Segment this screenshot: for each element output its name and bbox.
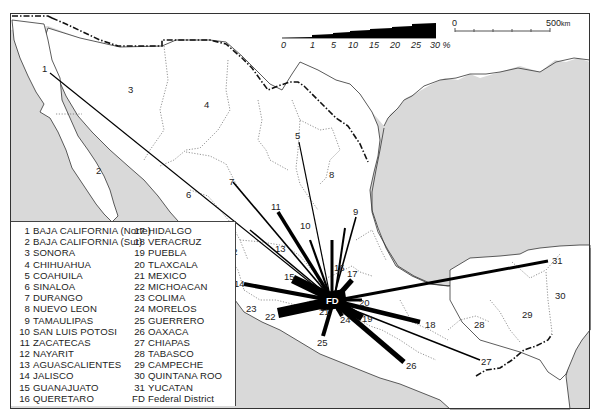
- legend-item: 29CAMPECHE: [132, 359, 222, 370]
- legend-item: 27CHIAPAS: [132, 337, 222, 348]
- state-legend: 1BAJA CALIFORNIA (Norte) 2BAJA CALIFORNI…: [11, 221, 236, 406]
- state-label-7: 7: [229, 176, 234, 187]
- state-label-30: 30: [555, 290, 566, 301]
- legend-item: FDFederal District: [132, 393, 222, 404]
- state-label-29: 29: [522, 309, 533, 320]
- legend-item: 23COLIMA: [132, 292, 222, 303]
- state-label-23: 23: [246, 303, 257, 314]
- legend-item: 20TLAXCALA: [132, 259, 222, 270]
- legend-item: 1BAJA CALIFORNIA (Norte): [17, 225, 151, 236]
- legend-item: 15GUANAJUATO: [17, 382, 151, 393]
- legend-item: 9TAMAULIPAS: [17, 315, 151, 326]
- legend-item: 13AGUASCALIENTES: [17, 359, 151, 370]
- pct-tick-1: 1: [310, 40, 315, 50]
- pct-tick-5: 5: [331, 40, 336, 50]
- legend-item: 6SINALOA: [17, 281, 151, 292]
- pct-tick-0: 0: [281, 40, 286, 50]
- legend-item: 16QUERETARO: [17, 393, 151, 404]
- legend-item: 25GUERRERO: [132, 315, 222, 326]
- pct-tick-30: 30 %: [430, 40, 451, 50]
- legend-item: 22MICHOACAN: [132, 281, 222, 292]
- state-label-26: 26: [406, 360, 417, 371]
- legend-item: 28TABASCO: [132, 348, 222, 359]
- state-label-25: 25: [317, 337, 328, 348]
- legend-column-right: 17HIDALGO 18VERACRUZ 19PUEBLA 20TLAXCALA…: [132, 225, 222, 404]
- pct-tick-10: 10: [348, 40, 358, 50]
- state-label-17: 17: [347, 268, 358, 279]
- legend-item: 18VERACRUZ: [132, 236, 222, 247]
- legend-item: 19PUEBLA: [132, 247, 222, 258]
- legend-item: 10SAN LUIS POTOSI: [17, 326, 151, 337]
- legend-item: 3SONORA: [17, 247, 151, 258]
- state-label-9: 9: [353, 206, 358, 217]
- legend-item: 2BAJA CALIFORNIA (Sur): [17, 236, 151, 247]
- state-label-27: 27: [481, 356, 492, 367]
- legend-item: 26OAXACA: [132, 326, 222, 337]
- federal-district-label: FD: [326, 295, 339, 306]
- state-label-19: 19: [362, 313, 373, 324]
- pct-tick-25: 25: [411, 40, 421, 50]
- state-label-8: 8: [329, 169, 334, 180]
- legend-item: 12NAYARIT: [17, 348, 151, 359]
- legend-item: 4CHIHUAHUA: [17, 259, 151, 270]
- distance-scale-end: 500km: [546, 18, 570, 28]
- state-label-11: 11: [271, 201, 281, 212]
- legend-item: 8NUEVO LEON: [17, 303, 151, 314]
- legend-item: 5COAHUILA: [17, 270, 151, 281]
- state-label-2: 2: [96, 165, 101, 176]
- state-label-6: 6: [186, 189, 191, 200]
- legend-item: 31YUCATAN: [132, 382, 222, 393]
- legend-item: 7DURANGO: [17, 292, 151, 303]
- legend-item: 30QUINTANA ROO: [132, 370, 222, 381]
- legend-column-left: 1BAJA CALIFORNIA (Norte) 2BAJA CALIFORNI…: [17, 225, 151, 404]
- legend-item: 14JALISCO: [17, 370, 151, 381]
- state-label-22: 22: [265, 311, 276, 322]
- state-label-1: 1: [42, 63, 47, 74]
- state-label-10: 10: [300, 220, 311, 231]
- state-label-21: 21: [319, 306, 330, 317]
- state-label-20: 20: [359, 297, 370, 308]
- state-label-4: 4: [204, 99, 209, 110]
- pct-tick-20: 20: [390, 40, 400, 50]
- state-label-31: 31: [552, 255, 563, 266]
- state-label-13: 13: [275, 243, 286, 254]
- legend-item: 21MEXICO: [132, 270, 222, 281]
- state-label-15: 15: [284, 271, 295, 282]
- state-label-24: 24: [340, 314, 351, 325]
- state-label-16: 16: [334, 262, 345, 273]
- legend-item: 17HIDALGO: [132, 225, 222, 236]
- state-label-28: 28: [474, 319, 485, 330]
- state-label-5: 5: [295, 130, 300, 141]
- pct-tick-15: 15: [369, 40, 379, 50]
- state-label-18: 18: [425, 319, 436, 330]
- distance-scale: 0 500km: [452, 18, 577, 38]
- state-label-3: 3: [128, 84, 133, 95]
- legend-item: 11ZACATECAS: [17, 337, 151, 348]
- percent-scale-labels: 0 1 5 10 15 20 25 30 %: [280, 26, 460, 50]
- legend-item: 24MORELOS: [132, 303, 222, 314]
